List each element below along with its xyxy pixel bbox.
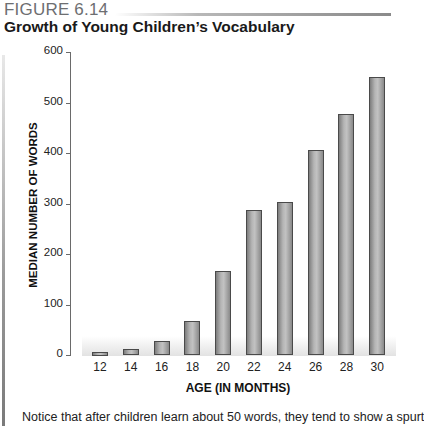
- y-tick: [66, 305, 71, 306]
- x-tick-label: 24: [270, 360, 300, 374]
- x-tick-label: 30: [362, 360, 392, 374]
- y-tick: [66, 254, 71, 255]
- bar-age-24: [277, 202, 293, 355]
- bar-age-30: [369, 77, 385, 355]
- y-tick-label: 500: [33, 95, 63, 107]
- bar-age-18: [184, 321, 200, 355]
- bar-age-28: [338, 114, 354, 355]
- y-tick-label: 400: [33, 145, 63, 157]
- x-tick-label: 14: [116, 360, 146, 374]
- x-tick-label: 28: [331, 360, 361, 374]
- y-tick: [66, 355, 71, 356]
- y-tick: [66, 103, 71, 104]
- x-tick-label: 16: [147, 360, 177, 374]
- y-tick-label: 100: [33, 297, 63, 309]
- y-tick: [66, 153, 71, 154]
- y-tick-label: 300: [33, 196, 63, 208]
- bar-age-20: [215, 271, 231, 355]
- x-axis-title: AGE (IN MONTHS): [0, 381, 406, 395]
- x-tick-label: 20: [208, 360, 238, 374]
- y-tick: [66, 52, 71, 53]
- y-tick: [66, 204, 71, 205]
- bar-age-12: [92, 352, 108, 356]
- x-tick-label: 18: [177, 360, 207, 374]
- y-tick-label: 600: [33, 44, 63, 56]
- x-tick-label: 22: [239, 360, 269, 374]
- bar-age-26: [308, 150, 324, 355]
- bar-age-16: [154, 341, 170, 355]
- bar-age-14: [123, 349, 139, 355]
- figure-caption: Notice that after children learn about 5…: [22, 410, 424, 424]
- x-tick-label: 12: [85, 360, 115, 374]
- y-tick-label: 0: [33, 347, 63, 359]
- x-tick-label: 26: [301, 360, 331, 374]
- y-tick-label: 200: [33, 246, 63, 258]
- bar-age-22: [246, 210, 262, 355]
